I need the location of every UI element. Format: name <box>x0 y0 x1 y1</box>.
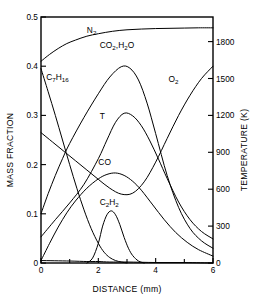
left-tick-label: 0.2 <box>26 160 38 170</box>
curve-label-text: CO2,H2O <box>100 40 135 51</box>
right-tick-label: 1200 <box>216 110 235 120</box>
right-tick-label: 900 <box>216 147 230 157</box>
figure-container: 00.10.20.30.40.5 0300600900120015001800 … <box>0 0 259 297</box>
plot-frame <box>41 17 213 263</box>
x-tick-label: 6 <box>211 265 216 275</box>
curve-label-text: O2 <box>169 74 180 85</box>
x-tick-label: 0 <box>39 265 44 275</box>
curve-label-text: CO <box>98 157 111 167</box>
right-tick-label: 1800 <box>216 37 235 47</box>
y-right-axis-title: TEMPERATURE (K) <box>239 109 249 192</box>
x-tick-label: 4 <box>153 265 158 275</box>
x-axis-tick-labels: 0246 <box>39 265 216 275</box>
curve-co2-h2o <box>41 66 213 248</box>
curve-label-text: N2 <box>87 25 97 36</box>
y-left-axis-title: MASS FRACTION <box>5 113 15 188</box>
curve-label-text: C2H2 <box>100 197 120 208</box>
curve-c7h16 <box>41 69 127 263</box>
left-tick-label: 0.1 <box>26 209 38 219</box>
right-axis-tick-labels: 0300600900120015001800 <box>216 37 235 268</box>
data-curves <box>41 28 213 263</box>
curve-o2 <box>41 66 213 195</box>
curve-labels: N2C7H16CO2,H2OTO2COC2H2 <box>46 25 179 208</box>
right-tick-label: 600 <box>216 184 230 194</box>
left-tick-label: 0.5 <box>26 12 38 22</box>
mass-fraction-temperature-chart: 00.10.20.30.40.5 0300600900120015001800 … <box>0 0 259 297</box>
right-tick-label: 1500 <box>216 74 235 84</box>
left-tick-label: 0.3 <box>26 110 38 120</box>
curve-label-text: T <box>100 111 105 121</box>
curve-t <box>41 113 213 239</box>
x-axis-title: DISTANCE (mm) <box>92 284 161 294</box>
left-tick-label: 0 <box>33 258 38 268</box>
left-axis-tick-labels: 00.10.20.30.40.5 <box>26 12 38 268</box>
right-tick-label: 300 <box>216 221 230 231</box>
curve-label-text: C7H16 <box>46 72 69 83</box>
x-tick-label: 2 <box>96 265 101 275</box>
right-tick-label: 0 <box>216 258 221 268</box>
left-tick-label: 0.4 <box>26 61 38 71</box>
left-axis-ticks <box>41 17 46 263</box>
curve-co <box>41 173 213 261</box>
right-axis-ticks <box>208 42 213 263</box>
